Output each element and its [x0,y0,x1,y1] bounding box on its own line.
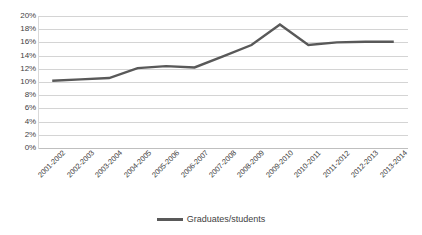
series-graduates-students [38,16,408,148]
x-tick-label: 2007-2008 [207,149,237,179]
x-tick-label: 2008-2009 [235,149,265,179]
x-tick-label: 2012-2013 [349,149,379,179]
y-tick-label: 4% [2,118,36,126]
x-tick-label: 2009-2010 [264,149,294,179]
x-tick-label: 2005-2006 [150,149,180,179]
x-tick-label: 2001-2002 [36,149,66,179]
x-tick-label: 2002-2003 [65,149,95,179]
y-tick-label: 8% [2,91,36,99]
y-tick-label: 0% [2,144,36,152]
y-tick-label: 16% [2,38,36,46]
y-tick-label: 6% [2,104,36,112]
y-tick-label: 20% [2,12,36,20]
chart-legend: Graduates/students [0,210,422,228]
x-tick-label: 2003-2004 [93,149,123,179]
x-tick-label: 2004-2005 [122,149,152,179]
y-tick-label: 2% [2,131,36,139]
y-tick-label: 18% [2,25,36,33]
legend-label-graduates-students: Graduates/students [187,215,266,224]
legend-line-swatch-icon [157,218,183,221]
x-axis-tick-labels: 2001-20022002-20032003-20042004-20052005… [38,149,408,207]
y-tick-label: 10% [2,78,36,86]
y-tick-label: 12% [2,65,36,73]
x-tick-label: 2011-2012 [321,149,351,179]
y-tick-label: 14% [2,52,36,60]
line-chart: 20%18%16%14%12%10%8%6%4%2%0% 2001-200220… [0,0,422,235]
x-tick-label: 2013-2014 [378,149,408,179]
x-tick-label: 2010-2011 [292,149,322,179]
y-axis-tick-labels: 20%18%16%14%12%10%8%6%4%2%0% [0,16,36,148]
x-tick-label: 2006-2007 [178,149,208,179]
